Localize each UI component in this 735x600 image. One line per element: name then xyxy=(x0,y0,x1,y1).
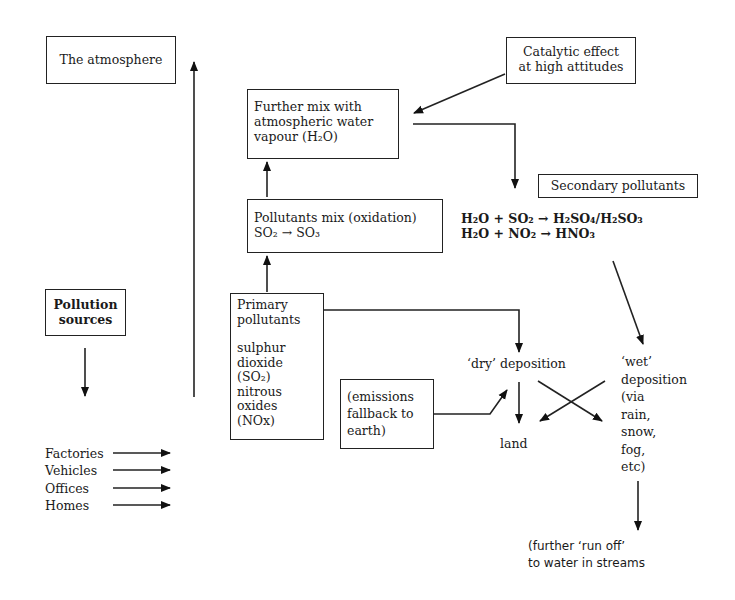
primary-line-5: dioxide xyxy=(237,356,317,371)
primary-line-6: (SO₂) xyxy=(237,370,317,385)
oxidation-line-1: Pollutants mix (oxidation) xyxy=(254,210,436,225)
equation-nitrogen: H₂O + NO₂ → HNO₃ xyxy=(461,226,643,241)
primary-pollutants-box: Primary pollutants sulphur dioxide (SO₂)… xyxy=(230,293,324,440)
wet-deposition-label: ‘wet’ deposition (via rain, snow, fog, e… xyxy=(621,353,687,476)
wet-line-7: etc) xyxy=(621,458,687,476)
pollution-sources-line-2: sources xyxy=(52,312,119,327)
further-mix-line-3: vapour (H₂O) xyxy=(254,129,392,144)
atmosphere-label: The atmosphere xyxy=(60,52,163,67)
source-offices: Offices xyxy=(45,480,104,497)
primary-line-2: pollutants xyxy=(237,313,317,328)
source-factories: Factories xyxy=(45,445,104,462)
emissions-fallback-box: (emissions fallback to earth) xyxy=(340,379,434,449)
primary-line-7: nitrous xyxy=(237,385,317,400)
land-label: land xyxy=(500,436,528,451)
secondary-pollutants-box: Secondary pollutants xyxy=(538,174,698,198)
emissions-line-2: fallback to xyxy=(347,405,427,422)
sources-list: Factories Vehicles Offices Homes xyxy=(45,445,104,514)
wet-line-4: rain, xyxy=(621,406,687,424)
primary-line-9: (NOx) xyxy=(237,414,317,429)
oxidation-box: Pollutants mix (oxidation) SO₂ → SO₃ xyxy=(247,199,443,253)
equation-sulphur: H₂O + SO₂ → H₂SO₄/H₂SO₃ xyxy=(461,211,643,226)
emissions-line-3: earth) xyxy=(347,422,427,439)
further-mix-line-1: Further mix with xyxy=(254,99,392,114)
primary-line-1: Primary xyxy=(237,298,317,313)
wet-line-5: snow, xyxy=(621,423,687,441)
emissions-line-1: (emissions xyxy=(347,388,427,405)
oxidation-line-2: SO₂ → SO₃ xyxy=(254,225,436,240)
wet-line-3: (via xyxy=(621,388,687,406)
run-off-label: (further ‘run off’ to water in streams xyxy=(528,538,645,572)
catalytic-line-1: Catalytic effect xyxy=(513,44,629,59)
source-homes: Homes xyxy=(45,497,104,514)
dry-deposition-label: ‘dry’ deposition xyxy=(467,356,566,371)
wet-line-6: fog, xyxy=(621,441,687,459)
source-vehicles: Vehicles xyxy=(45,462,104,479)
catalytic-line-2: at high attitudes xyxy=(513,59,629,74)
primary-line-8: oxides xyxy=(237,399,317,414)
further-mix-box: Further mix with atmospheric water vapou… xyxy=(247,89,399,159)
further-mix-line-2: atmospheric water xyxy=(254,114,392,129)
chemical-equations: H₂O + SO₂ → H₂SO₄/H₂SO₃ H₂O + NO₂ → HNO₃ xyxy=(461,211,643,241)
run-off-line-2: to water in streams xyxy=(528,555,645,572)
catalytic-effect-box: Catalytic effect at high attitudes xyxy=(506,37,636,84)
wet-line-1: ‘wet’ xyxy=(621,353,687,371)
pollution-sources-line-1: Pollution xyxy=(52,297,119,312)
atmosphere-box: The atmosphere xyxy=(46,36,176,84)
primary-line-4: sulphur xyxy=(237,341,317,356)
wet-line-2: deposition xyxy=(621,371,687,389)
run-off-line-1: (further ‘run off’ xyxy=(528,538,645,555)
secondary-pollutants-label: Secondary pollutants xyxy=(551,178,686,193)
pollution-sources-box: Pollution sources xyxy=(45,289,126,336)
